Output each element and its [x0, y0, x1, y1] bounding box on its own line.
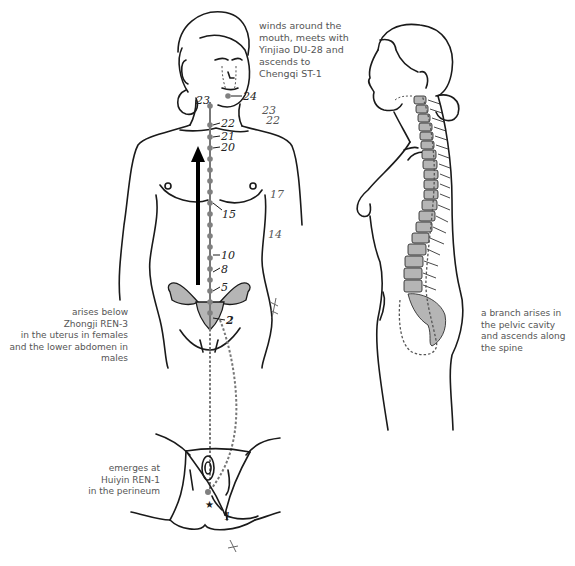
annotation-17: 17	[270, 188, 284, 201]
caption-line: and ascends along	[481, 331, 575, 343]
point-label-23: 23	[195, 94, 210, 107]
caption-line: the spine	[481, 343, 575, 355]
side-figure	[357, 24, 463, 430]
caption-line: ascends to	[259, 56, 369, 68]
caption-line: and the lower abdomen in	[0, 342, 128, 354]
caption-perineum: emerges at Huiyin REN-1 in the perineum	[60, 463, 160, 498]
caption-origin: arises below Zhongji REN-3 in the uterus…	[0, 307, 128, 365]
caption-line: Zhongji REN-3	[0, 319, 128, 331]
annotation-22: 22	[265, 114, 280, 127]
caption-line: in the uterus in females	[0, 330, 128, 342]
point-label-5: 5	[221, 281, 228, 294]
caption-line: arises below	[0, 307, 128, 319]
anus-star-icon: ★	[205, 499, 214, 510]
caption-line: Yinjiao DU-28 and	[259, 44, 369, 56]
caption-branch: a branch arises in the pelvic cavity and…	[481, 308, 575, 354]
caption-line: Huiyin REN-1	[60, 475, 160, 487]
caption-line: a branch arises in	[481, 308, 575, 320]
direction-arrow-icon	[191, 146, 205, 285]
caption-line: the pelvic cavity	[481, 320, 575, 332]
point-label-24: 24	[242, 90, 257, 103]
caption-line: winds around the	[259, 20, 369, 32]
point-label-8: 8	[221, 263, 228, 276]
annotation-14: 14	[268, 228, 282, 241]
point-label-2: 2	[225, 314, 234, 327]
caption-mouth: winds around the mouth, meets with Yinji…	[259, 20, 369, 80]
point-label-20: 20	[220, 141, 235, 154]
point-label-22: 22	[220, 117, 235, 130]
caption-line: Chengqi ST-1	[259, 68, 369, 80]
caption-line: males	[0, 353, 128, 365]
margin-scribble	[228, 540, 238, 552]
caption-line: emerges at	[60, 463, 160, 475]
caption-line: mouth, meets with	[259, 32, 369, 44]
caption-line: in the perineum	[60, 486, 160, 498]
point-label-10: 10	[221, 249, 235, 262]
point-label-15: 15	[222, 208, 236, 221]
spine	[404, 96, 446, 346]
side-face-dashes	[395, 96, 412, 100]
